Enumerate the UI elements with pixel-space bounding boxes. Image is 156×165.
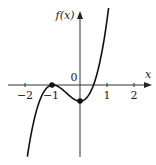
y-axis-label: f(x) [55,9,75,22]
y-axis-arrow-icon [77,11,83,19]
x-tick-label: 1 [104,89,111,102]
function-graph: −2 −1 1 2 0 x f(x) [0,0,156,165]
origin-label: 0 [71,71,78,84]
x-tick-label: −2 [17,89,33,102]
x-axis-label: x [145,68,152,81]
x-axis-arrow-icon [144,82,152,88]
local-min-point [77,98,83,104]
function-curve [27,8,108,157]
local-max-point [49,82,55,88]
x-tick-label: 2 [131,89,138,102]
